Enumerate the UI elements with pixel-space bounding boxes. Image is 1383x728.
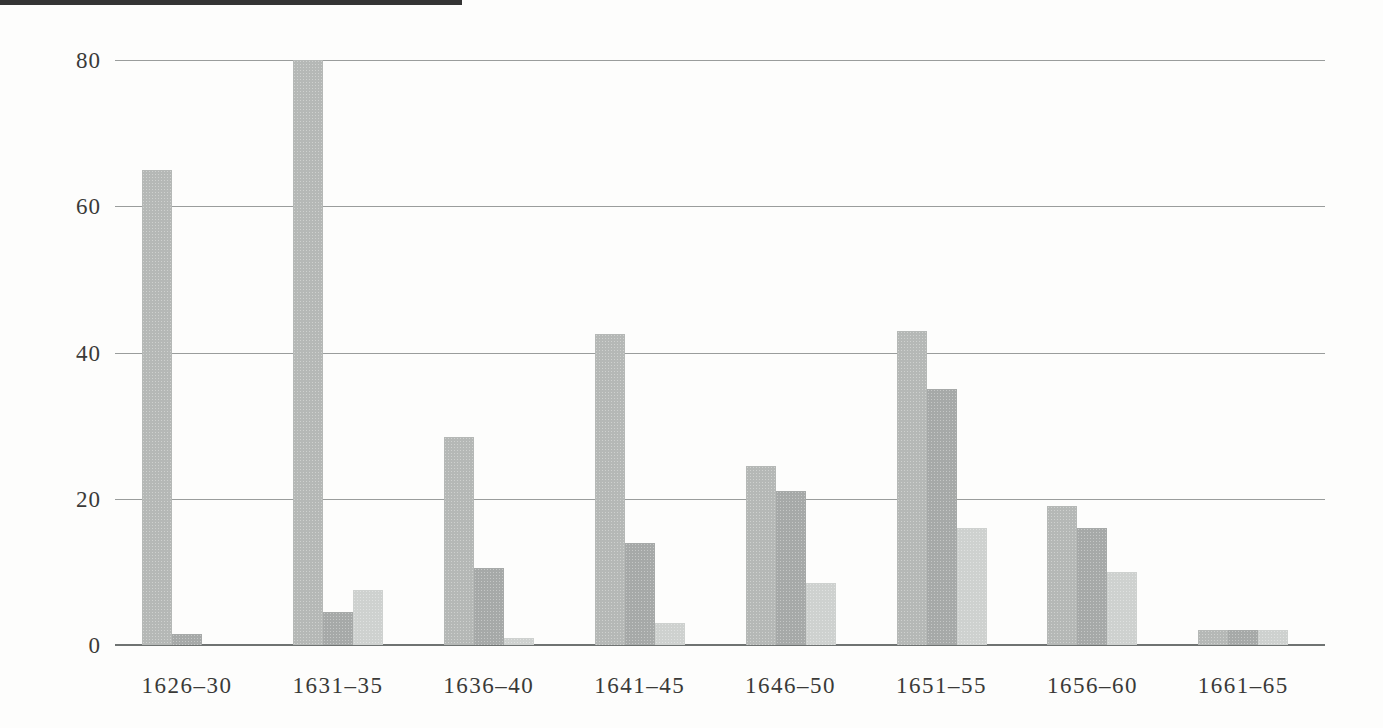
bar-series-1-medium-gray-1626-30 <box>142 170 172 645</box>
bar-series-1-medium-gray-1641-45 <box>595 334 625 645</box>
bar-series-1-medium-gray-1631-35 <box>293 60 323 645</box>
bar-series-1-medium-gray-1646-50 <box>746 466 776 645</box>
bar-series-1-medium-gray-1656-60 <box>1047 506 1077 645</box>
bar-series-3-light-gray-1661-65 <box>1258 630 1288 645</box>
y-tick-label-0: 0 <box>41 634 101 657</box>
bar-series-3-light-gray-1651-55 <box>957 528 987 645</box>
x-tick-label-1656-60: 1656–60 <box>1012 674 1172 697</box>
bar-series-2-dark-gray-1646-50 <box>776 491 806 645</box>
bar-series-2-dark-gray-1651-55 <box>927 389 957 645</box>
bar-series-1-medium-gray-1661-65 <box>1198 630 1228 645</box>
y-tick-label-80: 80 <box>41 49 101 72</box>
x-tick-label-1661-65: 1661–65 <box>1163 674 1323 697</box>
x-tick-label-1641-45: 1641–45 <box>560 674 720 697</box>
bar-series-3-light-gray-1641-45 <box>655 623 685 645</box>
x-tick-label-1626-30: 1626–30 <box>107 674 267 697</box>
bar-series-1-medium-gray-1651-55 <box>897 331 927 645</box>
bar-series-2-dark-gray-1636-40 <box>474 568 504 645</box>
bar-series-2-dark-gray-1641-45 <box>625 543 655 645</box>
x-tick-label-1636-40: 1636–40 <box>409 674 569 697</box>
y-tick-label-40: 40 <box>41 342 101 365</box>
bar-series-3-light-gray-1631-35 <box>353 590 383 645</box>
y-tick-label-20: 20 <box>41 488 101 511</box>
bar-series-2-dark-gray-1661-65 <box>1228 630 1258 645</box>
bar-series-2-dark-gray-1626-30 <box>172 634 202 645</box>
bar-series-1-medium-gray-1636-40 <box>444 437 474 645</box>
y-tick-label-60: 60 <box>41 195 101 218</box>
bar-series-2-dark-gray-1631-35 <box>323 612 353 645</box>
x-tick-label-1646-50: 1646–50 <box>711 674 871 697</box>
scanned-book-page: 0204060801626–301631–351636–401641–45164… <box>0 0 1383 728</box>
bar-series-3-light-gray-1656-60 <box>1107 572 1137 645</box>
grouped-bar-chart: 0204060801626–301631–351636–401641–45164… <box>0 0 1383 728</box>
x-tick-label-1651-55: 1651–55 <box>862 674 1022 697</box>
bar-series-2-dark-gray-1656-60 <box>1077 528 1107 645</box>
bar-series-3-light-gray-1636-40 <box>504 638 534 645</box>
x-tick-label-1631-35: 1631–35 <box>258 674 418 697</box>
bar-series-3-light-gray-1646-50 <box>806 583 836 645</box>
